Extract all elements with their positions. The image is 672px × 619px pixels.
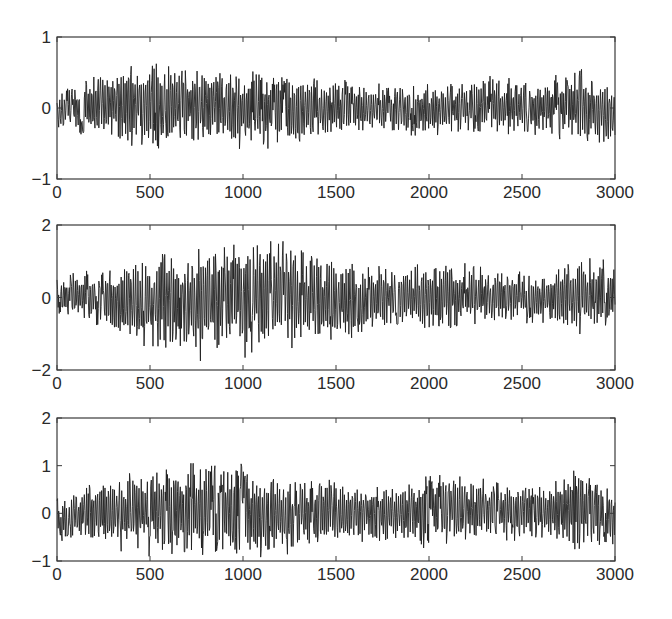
signal-line [57,241,615,361]
x-tick-label: 2500 [503,565,541,584]
x-tick-label: 500 [136,374,164,393]
x-tick-label: 3000 [596,183,634,202]
x-tick-label: 2500 [503,374,541,393]
y-tick-label: 2 [42,409,51,428]
x-tick-label: 500 [136,183,164,202]
y-tick-label: 1 [42,457,51,476]
signal-line [57,463,615,557]
x-tick-label: 1500 [317,565,355,584]
x-tick-label: 500 [136,565,164,584]
y-tick-label: −1 [32,552,51,571]
y-tick-label: −2 [32,361,51,380]
x-tick-label: 1000 [224,374,262,393]
subplot-3: 050010001500200025003000−1012 [32,409,634,584]
x-tick-label: 0 [52,565,61,584]
y-tick-label: 0 [42,289,51,308]
y-tick-label: 0 [42,504,51,523]
x-tick-label: 2000 [410,183,448,202]
subplot-1: 050010001500200025003000−101 [32,28,634,202]
figure: 050010001500200025003000−101 05001000150… [0,0,672,619]
x-tick-label: 1500 [317,374,355,393]
x-tick-label: 1500 [317,183,355,202]
x-tick-label: 3000 [596,374,634,393]
x-tick-label: 2000 [410,565,448,584]
y-tick-label: −1 [32,170,51,189]
y-tick-label: 2 [42,216,51,235]
x-tick-label: 0 [52,183,61,202]
x-tick-label: 1000 [224,565,262,584]
subplot-2: 050010001500200025003000−202 [32,216,634,393]
x-tick-label: 3000 [596,565,634,584]
x-tick-label: 1000 [224,183,262,202]
signal-line [57,64,615,149]
y-tick-label: 0 [42,99,51,118]
x-tick-label: 2000 [410,374,448,393]
y-tick-label: 1 [42,28,51,47]
x-tick-label: 0 [52,374,61,393]
x-tick-label: 2500 [503,183,541,202]
